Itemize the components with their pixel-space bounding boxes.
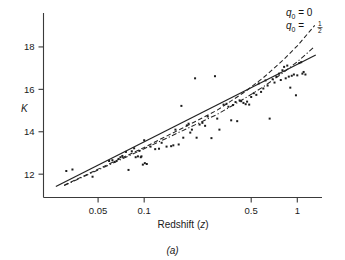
data-point — [289, 87, 291, 89]
data-point — [182, 137, 184, 139]
data-point — [71, 169, 73, 171]
data-point — [180, 105, 182, 107]
data-point — [135, 156, 137, 158]
x-tick-label: 0.5 — [245, 205, 258, 216]
data-point — [133, 147, 135, 149]
data-point — [286, 65, 288, 67]
data-point — [138, 150, 140, 152]
data-point — [274, 82, 276, 84]
data-point — [296, 74, 298, 76]
data-point — [250, 96, 252, 98]
y-axis-label: K — [21, 103, 29, 114]
x-tick-label: 1 — [295, 205, 300, 216]
data-point — [245, 103, 247, 105]
data-point — [288, 76, 290, 78]
data-point — [216, 118, 218, 120]
fraction-one-half: 1 2 — [318, 20, 323, 34]
data-point — [214, 75, 216, 77]
data-point — [295, 94, 297, 96]
data-point — [210, 137, 212, 139]
x-tick-label: 0.05 — [89, 205, 108, 216]
model-curve-q0-1-2 — [64, 46, 315, 185]
data-point — [144, 162, 146, 164]
data-point — [154, 148, 156, 150]
data-point — [191, 129, 193, 131]
data-point — [199, 124, 201, 126]
data-point — [119, 156, 121, 158]
data-point — [158, 148, 160, 150]
data-point — [303, 71, 305, 73]
data-point — [304, 74, 306, 76]
data-point — [186, 124, 188, 126]
data-point — [204, 125, 206, 127]
data-point — [283, 66, 285, 68]
data-point — [188, 123, 190, 125]
data-point — [118, 158, 120, 160]
redshift-magnitude-plot: 12141618 0.050.10.51 q0 = 0 q0 = 1 2 K R… — [0, 0, 345, 260]
data-point — [255, 94, 257, 96]
data-point — [269, 118, 271, 120]
data-point — [240, 100, 242, 102]
legend: q0 = 0 q0 = 1 2 — [286, 7, 323, 34]
data-point — [207, 115, 209, 117]
legend-label-q0-half: q0 = — [286, 20, 304, 33]
data-point — [298, 62, 300, 64]
y-tick-label: 12 — [24, 169, 35, 180]
data-point — [125, 151, 127, 153]
data-point — [275, 76, 277, 78]
data-point — [128, 169, 130, 171]
y-axis-label-text: K — [21, 103, 29, 114]
data-point — [146, 163, 148, 165]
data-point — [92, 176, 94, 178]
data-point — [291, 75, 293, 77]
data-point — [223, 104, 225, 106]
data-point — [189, 132, 191, 134]
figure-caption: (a) — [0, 245, 345, 256]
data-point — [178, 143, 180, 145]
data-point — [262, 88, 264, 90]
data-point — [140, 155, 142, 157]
data-point — [278, 73, 280, 75]
data-point — [242, 102, 244, 104]
model-curves — [56, 25, 316, 186]
data-point — [218, 129, 220, 131]
data-point — [227, 106, 229, 108]
data-point — [230, 119, 232, 121]
data-point — [114, 161, 116, 163]
data-point — [267, 85, 269, 87]
data-point — [201, 122, 203, 124]
data-point — [272, 78, 274, 80]
data-point — [143, 139, 145, 141]
data-point — [260, 91, 262, 93]
data-point — [285, 77, 287, 79]
data-point — [137, 155, 139, 157]
data-point — [265, 79, 267, 81]
data-point — [226, 103, 228, 105]
data-point — [280, 79, 282, 81]
data-point — [246, 101, 248, 103]
data-point — [108, 160, 110, 162]
data-point — [111, 159, 113, 161]
data-point — [161, 142, 163, 144]
x-axis-label-prefix: Redshift ( — [157, 219, 200, 230]
data-point — [131, 150, 133, 152]
legend-label-q0-zero: q0 = 0 — [286, 7, 313, 20]
data-point — [235, 101, 237, 103]
data-point — [166, 146, 168, 148]
fraction-numerator: 1 — [318, 20, 322, 27]
data-point — [258, 82, 260, 84]
data-point — [248, 104, 250, 106]
y-tick-label: 18 — [24, 41, 35, 52]
x-axis-label: Redshift (z) — [157, 219, 208, 230]
data-point — [194, 77, 196, 79]
data-point — [174, 129, 176, 131]
figure-panel: 12141618 0.050.10.51 q0 = 0 q0 = 1 2 K R… — [0, 0, 345, 260]
data-point — [253, 92, 255, 94]
x-tick-label: 0.1 — [138, 205, 151, 216]
data-point — [170, 145, 172, 147]
axes — [44, 13, 323, 198]
data-point — [293, 74, 295, 76]
data-point — [281, 69, 283, 71]
data-point — [196, 137, 198, 139]
data-point — [300, 61, 302, 63]
